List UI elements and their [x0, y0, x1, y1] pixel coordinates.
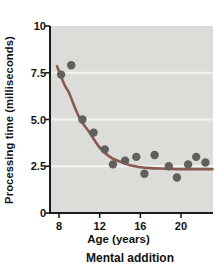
data-point: [89, 128, 97, 136]
data-point: [173, 173, 181, 181]
data-point: [165, 162, 173, 170]
x-axis-title: Age (years): [50, 233, 187, 245]
data-point: [192, 153, 200, 161]
data-point: [121, 156, 129, 164]
y-tick-label: 7.5: [20, 67, 46, 79]
data-point: [109, 160, 117, 168]
y-axis-title: Processing time (milliseconds): [3, 26, 15, 214]
data-point: [132, 153, 140, 161]
figure-mental-addition-chart: Processing time (milliseconds) 02.55.07.…: [0, 0, 224, 276]
x-tick-label: 20: [168, 220, 194, 232]
data-point: [101, 145, 109, 153]
data-point: [78, 115, 86, 123]
data-point: [150, 151, 158, 159]
data-point: [140, 170, 148, 178]
y-tick-label: 0: [20, 207, 46, 219]
x-tick-label: 12: [87, 220, 113, 232]
data-point: [184, 160, 192, 168]
y-tick-label: 2.5: [20, 160, 46, 172]
data-point: [201, 158, 209, 166]
x-tick-label: 16: [127, 220, 153, 232]
x-tick-label: 8: [46, 220, 72, 232]
y-tick-label: 10: [20, 20, 46, 32]
y-tick-label: 5.0: [20, 114, 46, 126]
data-point: [57, 70, 65, 78]
data-point: [67, 61, 75, 69]
figure-caption: Mental addition: [50, 251, 210, 265]
